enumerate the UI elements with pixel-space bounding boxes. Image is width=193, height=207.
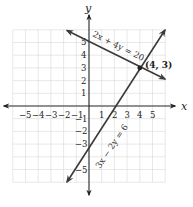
y-tick: 1: [81, 88, 86, 98]
x-tick: 4: [137, 110, 142, 120]
intersection-point-label: (4, 3): [145, 60, 172, 71]
y-tick: 3: [81, 63, 86, 73]
x-tick: −4: [32, 110, 45, 120]
coordinate-plane-chart: x y −5 −4 −3 −2 −1 1 2 3 4 5 5 4 3 2 1 −…: [0, 0, 193, 207]
y-axis-label: y: [84, 2, 92, 15]
intersection-point: [137, 66, 142, 71]
y-tick: −1: [75, 114, 88, 124]
x-tick: 3: [125, 110, 130, 120]
y-tick: −2: [75, 126, 88, 136]
x-tick: −3: [45, 110, 58, 120]
x-tick: −5: [19, 110, 32, 120]
x-tick: −2: [58, 110, 71, 120]
x-tick: 1: [99, 110, 104, 120]
x-axis-label: x: [181, 100, 188, 113]
y-tick: 4: [81, 50, 86, 60]
x-tick: 5: [150, 110, 155, 120]
line2-equation-label: 3x − 2y = 6: [93, 122, 130, 170]
y-tick: −3: [75, 139, 88, 149]
y-tick: 2: [81, 76, 86, 86]
